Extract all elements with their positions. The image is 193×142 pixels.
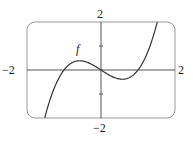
curve-label: f [76,43,79,55]
y-min-label: −2 [93,122,106,134]
x-max-label: 2 [178,64,184,76]
y-max-label: 2 [97,8,103,20]
x-min-label: −2 [2,64,15,76]
